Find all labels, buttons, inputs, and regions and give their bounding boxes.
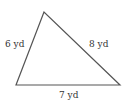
triangle-shape (0, 0, 129, 104)
triangle-diagram: 6 yd 8 yd 7 yd (0, 0, 129, 104)
side-label-left: 6 yd (5, 40, 24, 49)
side-label-right: 8 yd (89, 40, 108, 49)
side-label-bottom: 7 yd (59, 91, 78, 100)
